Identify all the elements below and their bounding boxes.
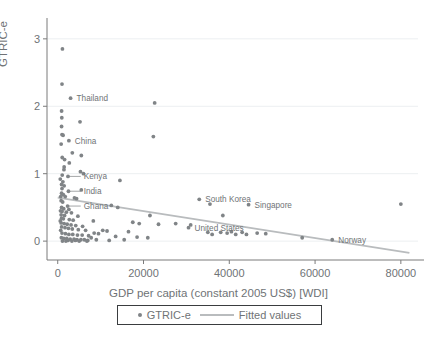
point-labels: ThailandChinaKenyaIndiaGhanaSouth KoreaS… (75, 94, 367, 245)
svg-text:China: China (75, 137, 97, 146)
svg-text:South Korea: South Korea (205, 195, 251, 204)
chart-legend: GTRIC-e Fitted values (117, 305, 322, 325)
svg-text:40000: 40000 (214, 267, 245, 279)
scatter-plot-figure: 0123020000400006000080000 ThailandChinaK… (0, 0, 437, 338)
y-axis-label: GTRIC-e (0, 0, 9, 104)
data-points (58, 47, 402, 243)
svg-text:0: 0 (55, 267, 61, 279)
svg-text:India: India (84, 187, 102, 196)
x-axis-label: GDP per capita (constant 2005 US$) [WDI] (0, 287, 437, 299)
svg-text:Thailand: Thailand (77, 94, 109, 103)
svg-text:60000: 60000 (300, 267, 331, 279)
svg-text:0: 0 (34, 235, 40, 247)
svg-text:Ghana: Ghana (84, 202, 109, 211)
legend-label-gtric: GTRIC-e (147, 309, 191, 321)
legend-label-fitted: Fitted values (239, 309, 301, 321)
legend-item-points: GTRIC-e (138, 309, 191, 321)
svg-text:Norway: Norway (338, 236, 367, 245)
svg-text:Kenya: Kenya (84, 172, 108, 181)
svg-text:3: 3 (34, 33, 40, 45)
svg-text:United States: United States (195, 224, 244, 233)
svg-text:2: 2 (34, 100, 40, 112)
svg-text:20000: 20000 (128, 267, 159, 279)
legend-item-fit: Fitted values (200, 309, 301, 321)
legend-marker-line-icon (200, 314, 234, 316)
svg-text:Singapore: Singapore (255, 201, 293, 210)
svg-text:80000: 80000 (386, 267, 417, 279)
svg-text:1: 1 (34, 168, 40, 180)
legend-marker-dot-icon (138, 313, 142, 317)
